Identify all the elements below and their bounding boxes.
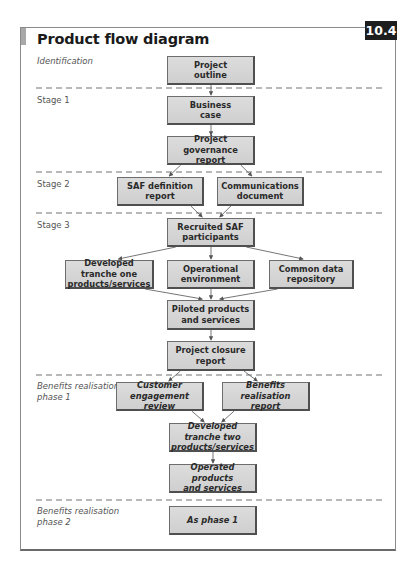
node-text: Common data	[279, 264, 344, 275]
node-text: report	[170, 155, 251, 166]
node-text: report	[175, 356, 245, 367]
node-text: products/services	[68, 279, 151, 290]
node-business-case: Businesscase	[167, 96, 255, 125]
node-text: Project	[194, 60, 227, 71]
node-text: Developed tranche two	[171, 421, 254, 442]
node-text: SAF definition	[127, 181, 193, 192]
node-developed-tranche-one: Developed tranche oneproducts/services	[65, 260, 154, 289]
node-operational-environment: Operationalenvironment	[167, 260, 255, 289]
node-text: Developed tranche one	[68, 258, 151, 279]
node-text: Operational	[181, 264, 241, 275]
node-developed-tranche-two: Developed tranche twoproducts/services	[169, 423, 257, 452]
flow-arrow-recruited_saf_participants-to-developed_tranche_one	[118, 247, 175, 259]
flow-arrow-recruited_saf_participants-to-common_data_repository	[246, 247, 303, 259]
node-text: Customer engagement	[119, 380, 200, 401]
flow-arrow-saf_definition_report-to-recruited_saf_participants	[191, 206, 202, 217]
node-text: document	[221, 191, 299, 202]
node-text: repository	[279, 274, 344, 285]
node-benefits-realisation-report: Benefits realisationreport	[222, 382, 310, 411]
node-text: participants	[177, 232, 243, 243]
node-text: Business	[190, 100, 231, 111]
node-text: and services	[172, 315, 249, 326]
node-text: Operated products	[172, 462, 253, 483]
node-operated-products: Operated productsand services	[169, 464, 257, 493]
flow-arrow-communications_document-to-recruited_saf_participants	[220, 206, 231, 217]
node-text: environment	[181, 274, 241, 285]
node-common-data-repository: Common datarepository	[269, 260, 354, 289]
flow-arrow-common_data_repository-to-piloted_products	[220, 289, 278, 299]
node-customer-engagement-review: Customer engagementreview	[116, 382, 204, 411]
node-text: Benefits realisation	[225, 380, 306, 401]
node-text: Project closure	[175, 345, 245, 356]
node-text: Piloted products	[172, 304, 249, 315]
node-text: review	[119, 401, 200, 412]
node-text: and services	[172, 483, 253, 494]
node-project-outline: Projectoutline	[167, 56, 255, 85]
node-text: report	[225, 401, 306, 412]
flow-arrow-project_governance_report-to-saf_definition_report	[169, 165, 181, 176]
node-as-phase-1: As phase 1	[169, 506, 257, 535]
node-text: case	[190, 110, 231, 121]
node-text: products/services	[171, 442, 254, 453]
node-text: Project governance	[170, 134, 251, 155]
node-text: Communications	[221, 181, 299, 192]
node-text: Recruited SAF	[177, 222, 243, 233]
node-communications-document: Communicationsdocument	[217, 177, 304, 206]
node-project-closure-report: Project closurereport	[167, 341, 255, 371]
flow-arrow-project_governance_report-to-communications_document	[241, 165, 252, 176]
node-piloted-products: Piloted productsand services	[167, 300, 255, 330]
node-text: report	[127, 191, 193, 202]
node-saf-definition-report: SAF definitionreport	[117, 177, 204, 206]
node-text: outline	[194, 70, 227, 81]
node-project-governance-report: Project governancereport	[167, 136, 255, 165]
node-recruited-saf-participants: Recruited SAFparticipants	[167, 218, 255, 247]
node-text: As phase 1	[187, 515, 238, 526]
flow-arrow-developed_tranche_one-to-piloted_products	[145, 289, 202, 299]
